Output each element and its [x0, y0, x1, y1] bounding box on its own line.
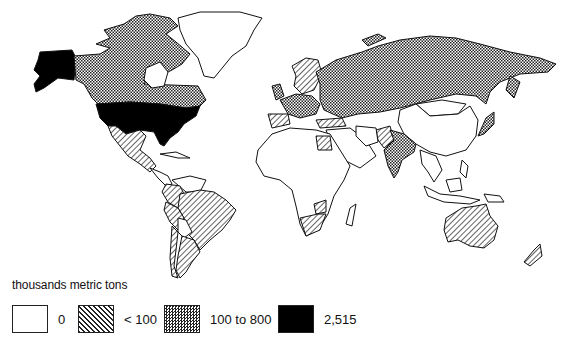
region-novaya-zemlya: [362, 34, 386, 46]
region-uk: [272, 84, 284, 100]
legend-swatch-lt100: [78, 305, 114, 333]
region-alaska: [34, 50, 76, 92]
legend-label-lt100: < 100: [124, 312, 157, 327]
legend-swatch-100-800: [164, 305, 200, 333]
legend-label-100-800: 100 to 800: [210, 312, 271, 327]
region-madagascar: [346, 204, 356, 226]
region-usa: [96, 102, 200, 146]
world-map: [0, 0, 562, 290]
region-turkey: [316, 118, 346, 128]
legend-label-0: 0: [58, 312, 65, 327]
region-borneo: [446, 178, 462, 192]
legend-title: thousands metric tons: [12, 278, 127, 292]
region-australia: [444, 204, 498, 248]
region-spain: [268, 114, 290, 128]
region-southeast-asia: [420, 150, 442, 182]
region-mexico: [108, 126, 156, 172]
region-kamchatka: [506, 76, 520, 98]
region-new-guinea: [484, 194, 504, 202]
region-philippines: [460, 160, 468, 178]
region-japan: [478, 112, 494, 136]
region-egypt: [316, 136, 332, 150]
region-new-zealand: [524, 244, 542, 266]
legend-label-2515: 2,515: [324, 312, 357, 327]
legend-swatch-0: [12, 305, 48, 333]
region-central-america: [150, 168, 172, 186]
region-cuba: [160, 152, 190, 158]
legend-swatch-2515: [278, 305, 314, 333]
region-greenland: [178, 12, 262, 78]
